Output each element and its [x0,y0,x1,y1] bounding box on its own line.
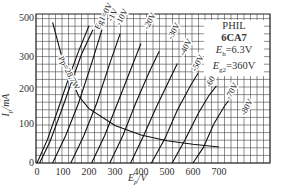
svg-text:0: 0 [35,166,40,177]
svg-text:100: 100 [56,166,71,177]
svg-text:600: 600 [186,166,201,177]
brand-label: PHIL [204,20,264,32]
svg-text:-80V: -80V [238,96,255,117]
curve--60v [151,73,198,163]
x-axis-label: Ep/V [128,172,147,186]
screen-voltage-label: Eg2=360V [204,60,264,76]
svg-text:700: 700 [212,166,227,177]
svg-text:300: 300 [19,51,34,62]
svg-text:0: 0 [29,157,34,168]
tube-type-label: 6CA7 [204,32,264,44]
svg-text:200: 200 [19,83,34,94]
svg-text:Pp=28.7W: Pp=28.7W [56,54,82,91]
svg-text:500: 500 [160,166,175,177]
svg-text:-20V: -20V [141,10,158,31]
curve--80v [193,96,232,163]
curve--40v [110,51,159,163]
heater-voltage-label: Eh=6.3V [204,44,264,60]
curves [37,22,232,163]
svg-text:-30V: -30V [165,20,182,41]
svg-text:200: 200 [82,166,97,177]
y-axis-label: Ip/mA [0,94,14,117]
svg-text:300: 300 [108,166,123,177]
curve--1v [40,30,93,163]
svg-text:100: 100 [19,118,34,129]
svg-text:500: 500 [19,12,34,23]
tube-info-box: PHIL 6CA7 Eh=6.3V Eg2=360V [204,20,264,76]
